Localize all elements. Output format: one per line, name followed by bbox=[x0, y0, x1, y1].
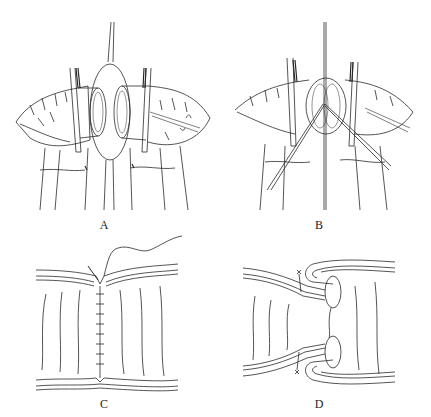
bowel-approximation-illustration-b bbox=[215, 0, 431, 215]
panel-b: B bbox=[215, 0, 431, 230]
panel-label-c: C bbox=[94, 397, 114, 412]
continuous-suture-illustration-c bbox=[0, 230, 215, 400]
panel-d: D bbox=[215, 230, 431, 417]
inverted-anastomosis-illustration-d bbox=[215, 230, 431, 400]
panel-c: C bbox=[0, 230, 215, 417]
panel-a: A bbox=[0, 0, 215, 230]
bowel-clamps-illustration-a bbox=[0, 0, 215, 215]
panel-label-d: D bbox=[309, 397, 329, 412]
